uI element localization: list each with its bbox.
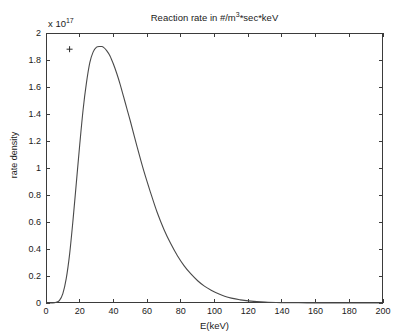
y-tick-label: 1 bbox=[36, 163, 41, 173]
x-tick-label: 200 bbox=[375, 306, 390, 316]
x-tick-label: 140 bbox=[274, 306, 289, 316]
x-axis-label: E(keV) bbox=[46, 320, 383, 331]
y-tick-label: 1.6 bbox=[28, 82, 41, 92]
x-axis-tickmarks bbox=[46, 33, 383, 303]
rate-density-curve bbox=[46, 46, 383, 303]
y-tick-label: 2 bbox=[36, 28, 41, 38]
y-tick-label: 1.2 bbox=[28, 136, 41, 146]
x-tick-label: 100 bbox=[207, 306, 222, 316]
plus-marker bbox=[67, 46, 73, 52]
x-tick-label: 60 bbox=[142, 306, 152, 316]
y-axis-tickmarks bbox=[46, 33, 383, 303]
y-tick-label: 0.6 bbox=[28, 217, 41, 227]
x-tick-label: 160 bbox=[308, 306, 323, 316]
y-tick-label: 0.8 bbox=[28, 190, 41, 200]
y-tick-label: 0 bbox=[36, 298, 41, 308]
x-tick-label: 20 bbox=[75, 306, 85, 316]
y-tick-label: 1.4 bbox=[28, 109, 41, 119]
x-tick-label: 0 bbox=[43, 306, 48, 316]
y-axis-label: rate density bbox=[9, 115, 19, 195]
x-tick-label: 180 bbox=[342, 306, 357, 316]
annotation-markers bbox=[67, 46, 73, 52]
plot-graphics bbox=[0, 0, 398, 336]
x-tick-label: 80 bbox=[176, 306, 186, 316]
y-tick-label: 0.2 bbox=[28, 271, 41, 281]
x-tick-label: 40 bbox=[108, 306, 118, 316]
y-tick-label: 1.8 bbox=[28, 55, 41, 65]
y-tick-label: 0.4 bbox=[28, 244, 41, 254]
x-tick-label: 120 bbox=[241, 306, 256, 316]
figure-canvas: Reaction rate in #/m3*sec*keV x 1017 020… bbox=[0, 0, 398, 336]
